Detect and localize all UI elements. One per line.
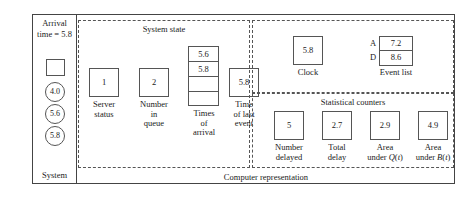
event-list-key: A: [368, 36, 378, 50]
times-of-arrival-cell: 5.6: [189, 47, 218, 62]
counter-label-area-under-b: Area under B(t): [406, 143, 460, 162]
counter-value-number-delayed: 5: [274, 111, 304, 140]
counter-label-total-delay: Total delay: [310, 143, 364, 162]
system-panel: Arrival time = 5.8 4.0 5.6 5.8 System: [32, 14, 77, 184]
times-of-arrival-cell: [189, 77, 218, 92]
arrival-time-label-line2: time = 5.8: [32, 29, 77, 40]
arrival-time-header: Arrival time = 5.8: [32, 18, 77, 39]
number-in-queue-label: Number in queue: [131, 100, 177, 129]
system-customer-circle: 5.6: [45, 104, 65, 124]
times-of-arrival-cell: [189, 92, 218, 107]
system-customer-circle: 4.0: [45, 82, 65, 102]
counter-label-area-under-q: Area under Q(t): [358, 143, 412, 162]
system-server-square: [46, 59, 65, 76]
event-list-label: Event list: [365, 68, 427, 78]
event-list-time: 7.2: [380, 37, 412, 51]
counter-value-area-under-b: 4.9: [418, 111, 448, 140]
counter-value-total-delay: 2.7: [322, 111, 352, 140]
counter-label-number-delayed: Number delayed: [262, 143, 316, 162]
event-list-time: 8.6: [380, 51, 412, 65]
clock-value: 5.8: [293, 36, 323, 65]
arrival-time-label-line1: Arrival: [32, 18, 77, 29]
statistical-counters-title: Statistical counters: [253, 97, 453, 107]
server-status-label: Server status: [81, 100, 127, 119]
clock-and-event-list-box: [252, 20, 454, 93]
number-in-queue-value: 2: [139, 68, 169, 97]
times-of-arrival-cell: 5.8: [189, 62, 218, 77]
times-of-arrival-stack: 5.6 5.8: [188, 46, 219, 106]
system-state-title: System state: [79, 24, 249, 34]
system-panel-label: System: [32, 170, 77, 180]
server-status-value: 1: [89, 68, 119, 97]
counter-value-area-under-q: 2.9: [370, 111, 400, 140]
computer-representation-region: System state 1 Server status 2 Number in…: [77, 14, 455, 184]
computer-representation-caption: Computer representation: [77, 172, 455, 182]
system-customer-circle: 5.8: [45, 126, 65, 146]
clock-label: Clock: [285, 68, 331, 78]
event-list-table: 7.2 8.6: [379, 36, 413, 66]
simulation-state-figure: Arrival time = 5.8 4.0 5.6 5.8 System Sy…: [0, 0, 470, 198]
event-list-key: D: [368, 50, 378, 64]
